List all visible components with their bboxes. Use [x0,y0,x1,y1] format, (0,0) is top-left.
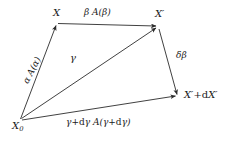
bottom-part-b: γ A(γ+ [85,117,116,127]
xpdx-part-b: X′ [208,89,217,100]
edge-label-gamma: γ [70,53,76,63]
vertex-label-x: X [53,8,60,18]
edge-label-beta: β A(β) [84,8,111,17]
edge-label-delta-beta: δβ [176,51,187,60]
vertex-label-x-prime-plus-dx-prime: X′+dX′ [184,90,218,100]
vertex-label-x-prime: X′ [155,9,164,19]
bottom-part-a: γ+ [66,117,79,127]
vertex-label-x0: X0 [12,121,23,132]
beta-arrow [58,24,156,27]
vector-diagram: X0 X X′ X′+dX′ β A(β) α A(α) γ δβ γ+dγ A… [0,0,233,144]
bottom-part-c: γ) [122,117,131,127]
gamma-arrow [22,28,157,119]
xpdx-part-a: X′+ [184,89,202,100]
deltabeta-arrow [159,29,177,95]
edge-label-gamma-dgamma: γ+dγ A(γ+dγ) [66,118,131,127]
vertex-label-x0-subscript: 0 [19,125,23,133]
